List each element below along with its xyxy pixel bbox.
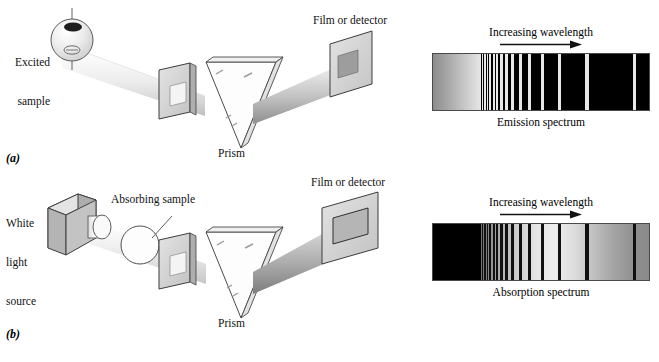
absorption-spectrum-caption: Absorption spectrum [432, 286, 650, 298]
figure-root: Excited sample Prism Film or detector (a… [0, 0, 659, 362]
slit-plate-icon [159, 63, 196, 119]
absorption-line [489, 224, 491, 280]
absorption-spectrum-bar [432, 223, 650, 281]
emission-continuum [433, 54, 481, 110]
emission-line [585, 54, 588, 110]
excited-sample-icon [51, 19, 93, 61]
emission-wavelength-label: Increasing wavelength [432, 26, 650, 38]
absorption-continuum [433, 224, 481, 280]
absorption-line [541, 224, 544, 280]
emission-line [558, 54, 561, 110]
absorption-line [487, 224, 489, 280]
absorbing-sample-label: Absorbing sample [111, 193, 195, 206]
absorbing-sample-leader [152, 216, 172, 238]
slit-plate-icon-b [159, 233, 196, 289]
emission-line [493, 54, 495, 110]
absorption-line [505, 224, 507, 280]
emission-line [633, 54, 636, 110]
emission-arrow-row [432, 39, 650, 50]
panel-a: Excited sample Prism Film or detector (a… [0, 0, 420, 175]
emission-spectrum-block: Increasing wavelength Emission spectrum [432, 26, 650, 128]
white-light-source-label-l3: source [6, 295, 50, 308]
panel-a-tag: (a) [6, 151, 20, 166]
panel-b-drawing [0, 172, 420, 357]
absorption-arrow-row [432, 209, 650, 220]
emission-line [482, 54, 484, 110]
absorption-line [511, 224, 514, 280]
emission-line [500, 54, 502, 110]
excited-sample-label: Excited sample [8, 30, 50, 134]
emission-line [505, 54, 507, 110]
absorbing-sample-icon [121, 226, 159, 264]
absorption-line [482, 224, 484, 280]
increasing-wavelength-arrow [498, 39, 584, 50]
emission-line [528, 54, 531, 110]
absorption-line [528, 224, 531, 280]
absorption-line [500, 224, 502, 280]
absorption-line [496, 224, 498, 280]
excited-sample-label-l1: Excited [8, 56, 50, 69]
absorption-line [519, 224, 522, 280]
increasing-wavelength-arrow-2 [498, 209, 584, 220]
emission-spectrum-bar [432, 53, 650, 111]
prism-label-a: Prism [218, 147, 245, 160]
white-light-source-label-l2: light [6, 256, 50, 269]
absorption-line [585, 224, 588, 280]
emission-line [487, 54, 489, 110]
absorption-wavelength-label: Increasing wavelength [432, 196, 650, 208]
emission-line [489, 54, 491, 110]
emission-line [519, 54, 522, 110]
emission-line [541, 54, 544, 110]
emission-line [496, 54, 498, 110]
absorption-line [633, 224, 636, 280]
prism-label-b: Prism [218, 317, 245, 330]
absorption-line [493, 224, 495, 280]
film-detector-icon-b [322, 192, 378, 264]
absorption-line [484, 224, 486, 280]
white-light-source-label: White light source [6, 191, 50, 334]
emission-line [511, 54, 514, 110]
white-light-source-label-l1: White [6, 217, 50, 230]
panel-b-tag: (b) [6, 327, 20, 342]
excited-sample-label-l2: sample [8, 95, 50, 108]
detector-label-b: Film or detector [311, 176, 385, 189]
absorption-spectrum-block: Increasing wavelength Absorption spectru… [432, 196, 650, 298]
emission-spectrum-caption: Emission spectrum [432, 116, 650, 128]
absorption-line [558, 224, 561, 280]
detector-label-a: Film or detector [313, 14, 387, 27]
panel-b: White light source Absorbing sample Pris… [0, 172, 420, 357]
film-detector-icon [330, 31, 372, 97]
emission-line [484, 54, 486, 110]
